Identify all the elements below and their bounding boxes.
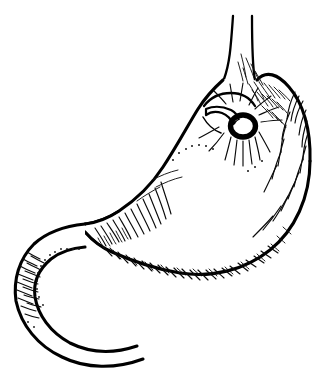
stomach-illustration-figure xyxy=(0,0,332,374)
stomach-drawing-canvas xyxy=(0,0,332,374)
ring-lesion-lumen xyxy=(235,119,251,133)
